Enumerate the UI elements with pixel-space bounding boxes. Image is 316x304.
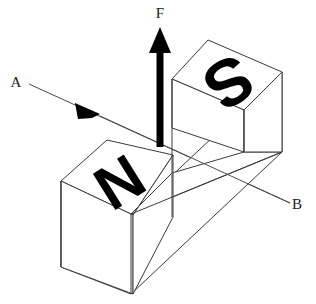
force-vector-arrowhead-icon [149,27,171,53]
magnet-diagram-canvas: S N F A B [0,0,316,304]
ray-start-label-a: A [11,74,22,90]
force-vector-group: F [149,5,171,147]
ray-end-label-b: B [292,196,302,212]
magnet-diagram-figure: S N F A B [0,0,316,304]
force-label: F [156,5,164,21]
